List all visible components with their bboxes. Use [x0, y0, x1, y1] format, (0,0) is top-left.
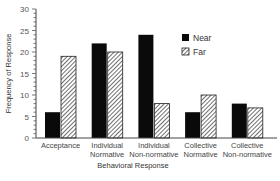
bar-far [61, 56, 76, 138]
bar-far [108, 52, 123, 138]
legend-swatch-near [182, 34, 189, 41]
bars [45, 35, 263, 138]
y-tick-label: 25 [20, 27, 29, 36]
bar-far [154, 104, 169, 138]
x-category-label: Collective [184, 141, 217, 150]
y-tick-label: 30 [20, 5, 29, 14]
y-axis-title-text: Frequency of Response [4, 34, 13, 114]
y-tick-label: 15 [20, 70, 29, 79]
y-axis-title: Frequency of Response [4, 34, 13, 114]
y-tick-label: 20 [20, 48, 29, 57]
bar-near [92, 43, 107, 138]
x-category-label: Individual [138, 141, 170, 150]
x-category-label: Collective [231, 141, 264, 150]
bar-near [45, 112, 60, 138]
bar-chart: 051015202530 Frequency of Response Accep… [0, 0, 280, 181]
bar-near [232, 104, 247, 138]
legend-label-near: Near [193, 33, 212, 43]
x-axis-title: Behavioral Response [97, 161, 168, 170]
y-tick-label: 10 [20, 91, 29, 100]
x-category-label: Individual [91, 141, 123, 150]
x-axis-title-text: Behavioral Response [97, 161, 168, 170]
x-category-label: Normative [184, 150, 218, 159]
bar-far [201, 95, 216, 138]
legend-swatch-far [182, 48, 189, 55]
legend: NearFar [182, 33, 212, 57]
legend-label-far: Far [193, 47, 206, 57]
y-tick-label: 0 [25, 134, 30, 143]
bar-near [185, 112, 200, 138]
x-category-label: Non-normative [223, 150, 272, 159]
bar-far [248, 108, 263, 138]
y-tick-label: 5 [25, 113, 30, 122]
y-axis: 051015202530 [20, 5, 36, 143]
bar-near [138, 35, 153, 138]
x-category-label: Normative [90, 150, 124, 159]
x-category-label: Non-normative [129, 150, 178, 159]
x-axis-category-labels: AcceptanceIndividualNormativeIndividualN… [41, 141, 272, 159]
x-category-label: Acceptance [41, 141, 80, 150]
